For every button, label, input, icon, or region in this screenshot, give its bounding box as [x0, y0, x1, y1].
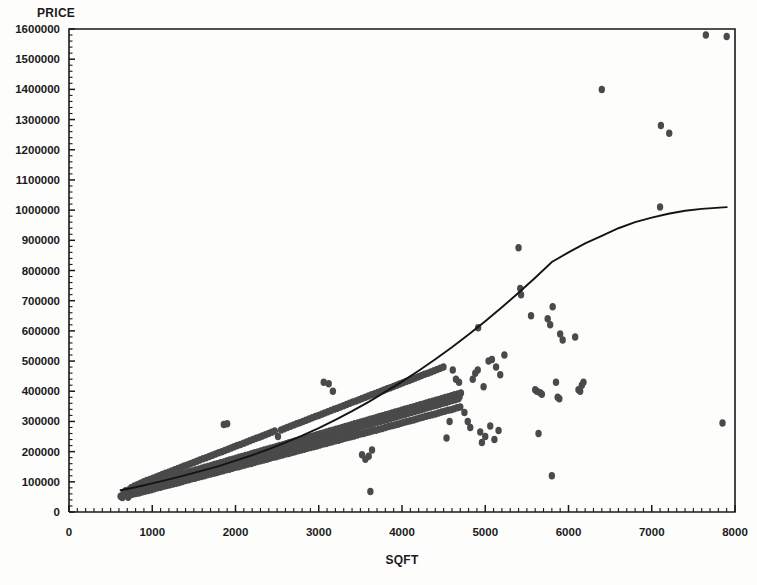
scatter-point: [559, 336, 565, 344]
scatter-point: [367, 488, 373, 496]
scatter-point: [475, 366, 481, 374]
scatter-point: [480, 383, 486, 391]
y-tick-label: 900000: [22, 234, 60, 246]
regression-fit-curve: [121, 207, 727, 490]
y-tick-label: 1200000: [15, 144, 60, 156]
x-tick-label: 0: [66, 526, 72, 538]
scatter-point: [528, 312, 534, 320]
y-tick-label: 0: [54, 506, 60, 518]
scatter-point: [461, 409, 467, 417]
x-tick-label: 7000: [639, 526, 665, 538]
scatter-point: [443, 434, 449, 442]
y-tick-label: 700000: [22, 295, 60, 307]
scatter-point: [467, 424, 473, 432]
scatter-point: [547, 321, 553, 329]
scatter-point: [572, 333, 578, 341]
scatter-point: [487, 422, 493, 430]
scatter-point: [456, 378, 462, 386]
x-tick-label: 6000: [556, 526, 582, 538]
scatter-point: [515, 244, 521, 252]
scatter-point: [450, 366, 456, 374]
scatter-point: [495, 427, 501, 435]
scatter-point: [458, 389, 464, 397]
y-tick-label: 200000: [22, 446, 60, 458]
scatter-point: [599, 86, 605, 94]
plot-frame: [69, 29, 735, 512]
scatter-point: [489, 356, 495, 364]
scatter-point: [535, 430, 541, 438]
scatter-point: [493, 363, 499, 371]
scatter-point: [658, 122, 664, 130]
y-tick-label: 100000: [22, 476, 60, 488]
scatter-point: [497, 371, 503, 379]
x-tick-label: 5000: [472, 526, 498, 538]
x-axis-title: SQFT: [385, 553, 419, 567]
scatter-point: [326, 380, 332, 388]
x-tick-label: 4000: [389, 526, 415, 538]
y-axis-title: PRICE: [37, 6, 75, 20]
x-tick-label: 2000: [223, 526, 249, 538]
scatter-point: [657, 203, 663, 211]
x-tick-label: 1000: [139, 526, 165, 538]
y-tick-label: 1400000: [15, 83, 60, 95]
y-tick-label: 1600000: [15, 23, 60, 35]
x-tick-label: 3000: [306, 526, 332, 538]
y-tick-label: 500000: [22, 355, 60, 367]
scatter-point: [482, 433, 488, 441]
y-tick-label: 600000: [22, 325, 60, 337]
scatter-point: [553, 378, 559, 386]
scatter-point: [224, 420, 230, 428]
scatter-point: [556, 395, 562, 403]
scatter-point: [549, 303, 555, 311]
plot-canvas: 0100000200000300000400000500000600000700…: [0, 0, 757, 585]
scatter-point: [580, 378, 586, 386]
y-tick-label: 1500000: [15, 53, 60, 65]
scatter-point: [491, 436, 497, 444]
y-tick-label: 1300000: [15, 114, 60, 126]
scatter-point: [330, 388, 336, 396]
scatter-point: [369, 446, 375, 454]
scatter-plot-figure: 0100000200000300000400000500000600000700…: [0, 0, 757, 585]
scatter-point: [446, 418, 452, 426]
scatter-point: [666, 129, 672, 137]
y-tick-label: 1100000: [16, 174, 60, 186]
scatter-point: [703, 31, 709, 39]
scatter-point: [477, 428, 483, 436]
scatter-point: [501, 351, 507, 359]
y-tick-label: 800000: [22, 265, 60, 277]
y-tick-label: 1000000: [15, 204, 60, 216]
scatter-point: [275, 433, 281, 441]
scatter-point: [719, 419, 725, 427]
y-tick-label: 300000: [22, 415, 60, 427]
scatter-point: [440, 363, 446, 371]
scatter-point: [539, 391, 545, 399]
y-tick-label: 400000: [22, 385, 60, 397]
x-tick-label: 8000: [722, 526, 748, 538]
scatter-point: [549, 472, 555, 480]
scatter-point: [723, 33, 729, 41]
scatter-points-group: [117, 31, 729, 501]
